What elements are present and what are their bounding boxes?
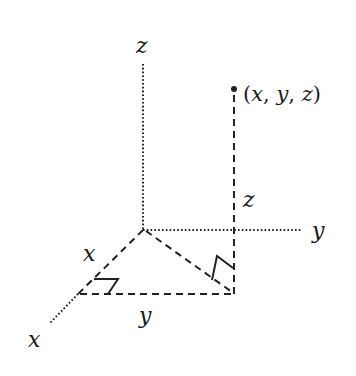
projection-diagonal <box>146 231 232 292</box>
point-label-open: ( <box>243 82 251 106</box>
x-axis-label: x <box>28 327 41 352</box>
point-dot <box>231 86 237 92</box>
y-axis-label: y <box>311 218 325 243</box>
point-label-close: ) <box>313 82 321 106</box>
point-label-x: x <box>251 82 263 106</box>
x-axis <box>50 294 78 323</box>
z-axis-label: z <box>135 33 148 58</box>
right-angle-marker-left <box>94 279 118 294</box>
point-label: (x, y, z) <box>243 82 321 106</box>
point-label-comma2: , <box>288 82 301 106</box>
right-angle-marker-right <box>212 256 233 280</box>
x-length-label: x <box>83 241 96 266</box>
y-length-label: y <box>138 303 152 328</box>
point-label-comma1: , <box>263 82 276 106</box>
point-label-z: z <box>301 82 314 106</box>
coordinate-diagram: z y x x y z (x, y, z) <box>0 0 356 376</box>
z-height-label: z <box>242 187 255 212</box>
